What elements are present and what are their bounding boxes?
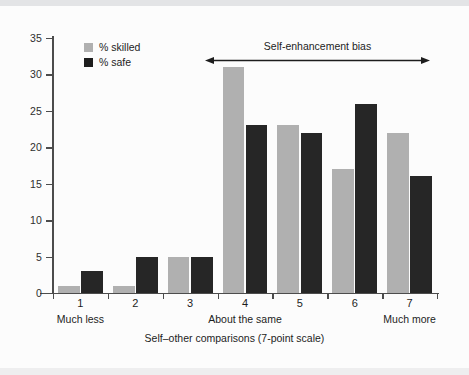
legend-item-skilled: % skilled	[84, 41, 140, 53]
x-axis-category-label-3: 3	[187, 297, 193, 309]
bar-skilled-7	[387, 133, 409, 293]
figure-canvas: 051015202530351234567Much lessAbout the …	[0, 0, 469, 375]
legend-label-skilled: % skilled	[99, 41, 140, 53]
x-axis-group-label-7: Much more	[383, 313, 436, 325]
x-axis-tick	[53, 293, 54, 299]
x-axis-tick	[272, 293, 273, 299]
bar-skilled-3	[168, 257, 190, 293]
x-axis-category-label-6: 6	[352, 297, 358, 309]
x-axis-tick	[218, 293, 219, 299]
bar-skilled-1	[58, 286, 80, 293]
x-axis-category-label-5: 5	[297, 297, 303, 309]
self-enhancement-bias-annotation: Self-enhancement bias	[205, 40, 430, 66]
y-axis-tick	[46, 220, 53, 221]
bar-skilled-6	[332, 169, 354, 293]
x-axis-category-label-4: 4	[242, 297, 248, 309]
chart-legend: % skilled % safe	[84, 41, 140, 71]
y-axis-tick-label: 5	[36, 251, 42, 263]
bar-safe-6	[355, 104, 377, 293]
x-axis-group-label-4: About the same	[208, 313, 282, 325]
x-axis-category-label-2: 2	[132, 297, 138, 309]
y-axis-tick	[46, 293, 53, 294]
y-axis-tick-label: 30	[30, 68, 42, 80]
legend-swatch-skilled	[84, 43, 93, 52]
x-axis-tick	[327, 293, 328, 299]
legend-item-safe: % safe	[84, 56, 140, 68]
y-axis-tick-label: 10	[30, 214, 42, 226]
x-axis-group-label-1: Much less	[57, 313, 104, 325]
bar-safe-5	[301, 133, 323, 293]
bar-skilled-5	[277, 125, 299, 293]
bar-safe-4	[246, 125, 268, 293]
y-axis-tick-label: 15	[30, 178, 42, 190]
y-axis-tick-label: 20	[30, 141, 42, 153]
bottom-border-strip	[0, 368, 469, 375]
bar-safe-2	[136, 257, 158, 293]
y-axis-tick	[46, 147, 53, 148]
x-axis-category-label-1: 1	[77, 297, 83, 309]
top-border-strip	[0, 0, 469, 6]
bar-safe-3	[191, 257, 213, 293]
y-axis-tick	[46, 111, 53, 112]
y-axis-tick	[46, 184, 53, 185]
y-axis-tick-label: 0	[36, 287, 42, 299]
y-axis-tick	[46, 257, 53, 258]
bar-skilled-4	[223, 67, 245, 293]
y-axis-tick	[46, 74, 53, 75]
double-headed-arrow-icon	[205, 56, 430, 65]
plot-area: 051015202530351234567Much lessAbout the …	[53, 38, 437, 293]
x-axis-tick	[108, 293, 109, 299]
x-axis-tick	[163, 293, 164, 299]
bar-safe-1	[81, 271, 103, 293]
bar-skilled-2	[113, 286, 135, 293]
y-axis-tick	[46, 38, 53, 39]
annotation-label: Self-enhancement bias	[205, 40, 430, 52]
x-axis-category-label-7: 7	[407, 297, 413, 309]
legend-swatch-safe	[84, 58, 93, 67]
legend-label-safe: % safe	[99, 56, 131, 68]
bar-safe-7	[410, 176, 432, 293]
x-axis-tick	[382, 293, 383, 299]
x-axis-tick	[437, 293, 438, 299]
y-axis-tick-label: 25	[30, 105, 42, 117]
x-axis-title: Self–other comparisons (7-point scale)	[0, 332, 469, 344]
y-axis-tick-label: 35	[30, 32, 42, 44]
